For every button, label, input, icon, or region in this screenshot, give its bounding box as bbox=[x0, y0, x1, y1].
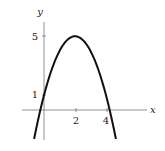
y-tick-label-5: 5 bbox=[32, 31, 38, 42]
y-tick-label-1: 1 bbox=[32, 89, 38, 100]
x-tick-label-2: 2 bbox=[73, 115, 79, 126]
y-axis-label: y bbox=[36, 6, 43, 17]
parabola-plot: y x 5 1 2 4 bbox=[0, 0, 165, 151]
x-axis-label: x bbox=[150, 104, 156, 115]
x-tick-label-4: 4 bbox=[103, 115, 109, 126]
